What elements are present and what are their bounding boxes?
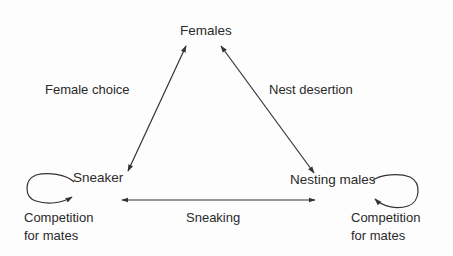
right-competition-loop-arrow: [372, 175, 418, 208]
edge-label-sneaking: Sneaking: [186, 210, 240, 226]
right-loop-label-line1: Competition: [351, 210, 420, 226]
edge-label-female-choice: Female choice: [45, 82, 130, 98]
node-sneaker: Sneaker: [73, 170, 123, 186]
left-loop-label-line2: for mates: [24, 228, 78, 244]
node-females: Females: [180, 23, 232, 39]
edge-label-nest-desertion: Nest desertion: [269, 82, 353, 98]
right-loop-label-line2: for mates: [351, 228, 405, 244]
left-competition-loop-arrow: [27, 174, 74, 203]
left-loop-label-line1: Competition: [24, 210, 93, 226]
diagram-canvas: Females Sneaker Nesting males Female cho…: [0, 0, 453, 256]
nest-desertion-arrow: [221, 46, 314, 173]
female-choice-arrow: [128, 46, 186, 171]
node-nesting-males: Nesting males: [290, 172, 376, 188]
